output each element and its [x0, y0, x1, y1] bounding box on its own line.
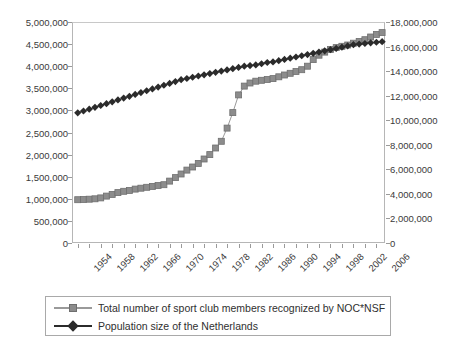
data-point-diamond	[172, 78, 179, 85]
data-point-diamond	[281, 56, 288, 63]
data-point-diamond	[223, 66, 230, 73]
data-point-diamond	[114, 96, 121, 103]
left-axis-tick	[68, 133, 72, 134]
data-point-square	[172, 175, 178, 181]
data-point-diamond	[235, 64, 242, 71]
chart-legend: Total number of sport club members recog…	[45, 296, 391, 336]
legend-item-population: Population size of the Netherlands	[54, 317, 258, 335]
right-axis-tick	[386, 218, 390, 219]
data-point-diamond	[246, 62, 253, 69]
x-axis-tick	[170, 244, 171, 248]
chart-container: 0500,0001,000,0001,500,0002,000,0002,500…	[0, 0, 455, 344]
x-axis-tick	[158, 244, 159, 248]
data-point-square	[138, 185, 144, 191]
data-point-square	[224, 125, 230, 131]
left-axis-tick	[68, 199, 72, 200]
series-line	[78, 33, 382, 200]
data-point-diamond	[178, 76, 185, 83]
data-point-square	[109, 191, 115, 197]
data-point-diamond	[97, 102, 104, 109]
x-axis-tick	[124, 244, 125, 248]
data-point-diamond	[143, 87, 150, 94]
x-axis-tick	[135, 244, 136, 248]
data-point-square	[167, 178, 173, 184]
data-point-square	[299, 67, 305, 73]
data-point-square	[310, 57, 316, 63]
data-point-square	[293, 69, 299, 75]
data-point-diamond	[218, 68, 225, 75]
legend-item-members: Total number of sport club members recog…	[54, 299, 385, 317]
data-point-square	[115, 190, 121, 196]
x-axis-tick	[239, 244, 240, 248]
x-axis-tick	[204, 244, 205, 248]
data-point-square	[121, 188, 127, 194]
left-axis-tick	[68, 88, 72, 89]
series-layer	[0, 0, 455, 344]
x-axis-tick	[353, 244, 354, 248]
x-axis-tick	[250, 244, 251, 248]
data-point-square	[155, 183, 161, 189]
x-axis-tick	[78, 244, 79, 248]
x-axis-tick	[296, 244, 297, 248]
data-point-diamond	[206, 70, 213, 77]
data-point-diamond	[275, 57, 282, 64]
x-axis-tick	[181, 244, 182, 248]
left-axis-tick	[68, 177, 72, 178]
x-axis-tick	[227, 244, 228, 248]
diamond-marker-icon	[54, 320, 92, 332]
left-axis-tick	[68, 44, 72, 45]
legend-label-members: Total number of sport club members recog…	[98, 302, 385, 314]
right-axis-tick	[386, 243, 390, 244]
data-point-diamond	[298, 52, 305, 59]
x-axis-tick	[147, 244, 148, 248]
data-point-square	[75, 197, 81, 203]
data-point-square	[276, 74, 282, 80]
series-members	[75, 30, 385, 203]
data-point-diamond	[200, 71, 207, 78]
data-point-square	[132, 186, 138, 192]
x-axis-tick	[319, 244, 320, 248]
right-axis-tick	[386, 22, 390, 23]
data-point-diamond	[160, 82, 167, 89]
data-point-diamond	[212, 69, 219, 76]
data-point-square	[126, 187, 132, 193]
right-axis-tick	[386, 120, 390, 121]
data-point-square	[144, 184, 150, 190]
x-axis-tick	[330, 244, 331, 248]
x-axis-tick	[284, 244, 285, 248]
right-axis-tick	[386, 71, 390, 72]
data-point-square	[201, 156, 207, 162]
data-point-square	[98, 195, 104, 201]
x-axis-tick	[342, 244, 343, 248]
data-point-diamond	[155, 83, 162, 90]
data-point-square	[86, 196, 92, 202]
x-axis-tick	[262, 244, 263, 248]
data-point-square	[247, 80, 253, 86]
left-axis-tick	[68, 22, 72, 23]
left-axis-tick	[68, 243, 72, 244]
x-axis-tick	[365, 244, 366, 248]
left-axis-tick	[68, 221, 72, 222]
data-point-square	[184, 167, 190, 173]
data-point-diamond	[149, 85, 156, 92]
data-point-square	[282, 72, 288, 78]
right-axis-tick	[386, 194, 390, 195]
data-point-square	[230, 110, 236, 116]
data-point-diamond	[264, 59, 271, 66]
data-point-square	[178, 171, 184, 177]
data-point-diamond	[91, 104, 98, 111]
data-point-diamond	[241, 63, 248, 70]
data-point-square	[287, 70, 293, 76]
data-point-diamond	[258, 60, 265, 67]
x-axis-tick	[273, 244, 274, 248]
data-point-square	[305, 63, 311, 69]
x-axis-tick	[101, 244, 102, 248]
data-point-square	[213, 145, 219, 151]
x-axis-tick	[307, 244, 308, 248]
data-point-diamond	[287, 55, 294, 62]
data-point-diamond	[292, 53, 299, 60]
data-point-square	[264, 77, 270, 83]
data-point-diamond	[189, 74, 196, 81]
data-point-square	[161, 182, 167, 188]
right-axis-tick	[386, 96, 390, 97]
